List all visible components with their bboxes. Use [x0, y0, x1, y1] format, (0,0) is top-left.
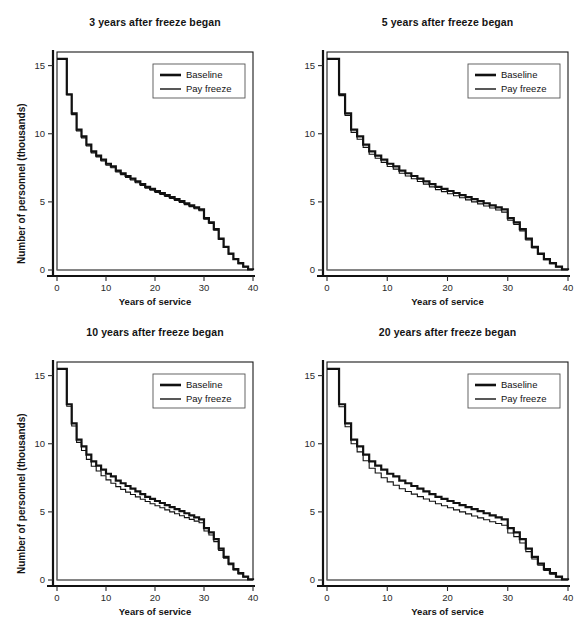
- panel-title: 3 years after freeze began: [17, 16, 293, 28]
- svg-text:30: 30: [502, 592, 513, 602]
- svg-text:10: 10: [101, 282, 112, 292]
- panel-title: 20 years after freeze began: [287, 326, 587, 338]
- panel-title: 10 years after freeze began: [17, 326, 293, 338]
- svg-text:0: 0: [324, 282, 329, 292]
- svg-text:10: 10: [34, 438, 45, 449]
- svg-text:5: 5: [40, 196, 45, 207]
- svg-text:40: 40: [248, 592, 259, 602]
- panel-title: 5 years after freeze began: [287, 16, 587, 28]
- svg-text:10: 10: [304, 438, 315, 449]
- plot-area: 051015010203040BaselinePay freeze: [31, 358, 259, 602]
- x-axis-label: Years of service: [327, 606, 568, 617]
- svg-text:15: 15: [304, 370, 315, 381]
- legend-label: Baseline: [186, 379, 222, 390]
- figure-root: 3 years after freeze beganNumber of pers…: [0, 0, 587, 617]
- legend: BaselinePay freeze: [468, 64, 560, 98]
- svg-text:0: 0: [310, 574, 315, 585]
- chart-panel-panel-10-years: 10 years after freeze beganNumber of per…: [0, 318, 293, 617]
- svg-text:10: 10: [382, 282, 393, 292]
- plot-area: 051015010203040BaselinePay freeze: [31, 48, 259, 292]
- svg-text:20: 20: [150, 282, 161, 292]
- svg-text:15: 15: [304, 60, 315, 71]
- legend-label: Pay freeze: [186, 83, 231, 94]
- svg-text:10: 10: [382, 592, 393, 602]
- svg-text:20: 20: [150, 592, 161, 602]
- svg-text:10: 10: [34, 128, 45, 139]
- chart-panel-panel-3-years: 3 years after freeze beganNumber of pers…: [0, 8, 293, 307]
- svg-text:20: 20: [442, 282, 453, 292]
- legend: BaselinePay freeze: [153, 374, 245, 408]
- legend-label: Baseline: [186, 69, 222, 80]
- svg-text:0: 0: [54, 282, 59, 292]
- legend-label: Pay freeze: [501, 393, 546, 404]
- legend: BaselinePay freeze: [153, 64, 245, 98]
- x-axis-label: Years of service: [57, 606, 253, 617]
- x-axis-label: Years of service: [57, 296, 253, 307]
- chart-panel-panel-5-years: 5 years after freeze beganYears of servi…: [294, 8, 587, 307]
- legend: BaselinePay freeze: [468, 374, 560, 408]
- svg-text:30: 30: [502, 282, 513, 292]
- y-axis-label: Number of personnel (thousands): [16, 103, 27, 264]
- svg-text:30: 30: [199, 592, 210, 602]
- svg-text:10: 10: [304, 128, 315, 139]
- legend-label: Baseline: [501, 379, 537, 390]
- svg-text:40: 40: [563, 282, 574, 292]
- svg-text:15: 15: [34, 370, 45, 381]
- svg-text:5: 5: [40, 506, 45, 517]
- svg-text:0: 0: [310, 264, 315, 275]
- svg-text:15: 15: [34, 60, 45, 71]
- svg-text:0: 0: [324, 592, 329, 602]
- plot-area: 051015010203040BaselinePay freeze: [301, 48, 574, 292]
- svg-text:30: 30: [199, 282, 210, 292]
- svg-text:20: 20: [442, 592, 453, 602]
- x-axis-label: Years of service: [327, 296, 568, 307]
- chart-panel-panel-20-years: 20 years after freeze beganYears of serv…: [294, 318, 587, 617]
- svg-text:40: 40: [248, 282, 259, 292]
- svg-text:40: 40: [563, 592, 574, 602]
- legend-label: Pay freeze: [186, 393, 231, 404]
- svg-text:5: 5: [310, 196, 315, 207]
- svg-text:0: 0: [54, 592, 59, 602]
- legend-label: Baseline: [501, 69, 537, 80]
- y-axis-label: Number of personnel (thousands): [16, 413, 27, 574]
- svg-text:0: 0: [40, 574, 45, 585]
- plot-area: 051015010203040BaselinePay freeze: [301, 358, 574, 602]
- svg-text:5: 5: [310, 506, 315, 517]
- svg-text:10: 10: [101, 592, 112, 602]
- svg-text:0: 0: [40, 264, 45, 275]
- legend-label: Pay freeze: [501, 83, 546, 94]
